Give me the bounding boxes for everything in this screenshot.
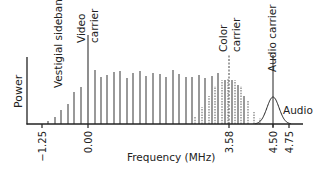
color-carrier-label-2: carrier [230,17,242,52]
y-axis-label: Power [12,74,25,108]
x-axis-label: Frequency (MHz) [127,151,215,163]
tick-label: 3.58 [224,131,235,153]
audio-label: Audio [283,104,313,116]
vestigial-sidebands-label: Vestigial sidebands [52,0,64,88]
spectrum-diagram: −1.250.003.584.504.75 Power Frequency (M… [0,0,318,177]
video-carrier-label-1: Video [75,14,87,43]
tick-label: −1.25 [37,131,48,162]
tick-label: 4.75 [284,131,295,153]
audio-carrier-label: Audio carrier [266,4,278,72]
tick-label: 0.00 [83,131,94,153]
color-carrier-label-1: Color [217,24,229,52]
tick-label: 4.50 [268,131,279,153]
video-carrier-label-2: carrier [88,8,100,43]
